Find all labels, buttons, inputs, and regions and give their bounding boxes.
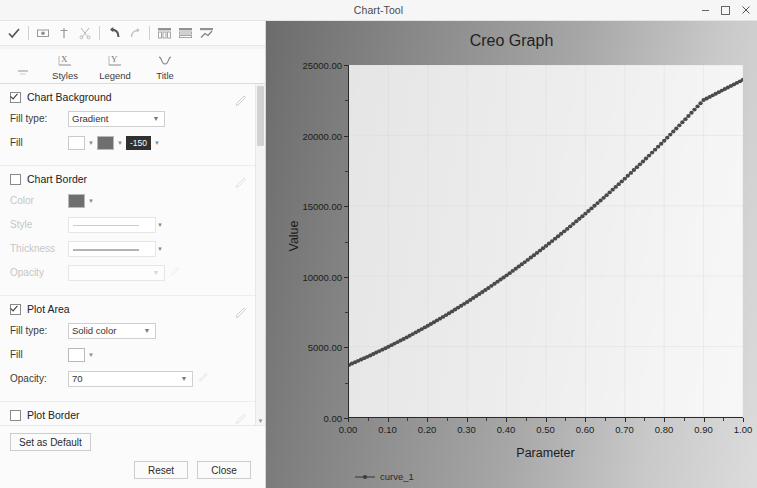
tab-title[interactable]: Title xyxy=(140,49,190,83)
chart-border-color-swatches: ▼ xyxy=(68,194,95,208)
plot-fill-swatches: ▼ xyxy=(68,348,95,362)
chevron-down-icon[interactable]: ▼ xyxy=(87,140,95,146)
chevron-down-icon[interactable]: ▼ xyxy=(87,352,95,358)
y-tick-mark xyxy=(344,136,348,137)
plot-area-checkbox[interactable] xyxy=(10,304,21,315)
chart-border-thickness-row: Thickness ▼ xyxy=(10,239,253,258)
close-button[interactable] xyxy=(740,5,751,16)
chart-tool-window: Chart-Tool xyxy=(0,0,757,488)
chart-preview-pane[interactable]: Creo Graph 0.005000.0010000.0015000.0020… xyxy=(266,21,757,488)
chart-title: Creo Graph xyxy=(266,32,757,50)
undo-icon[interactable] xyxy=(104,23,124,43)
y-tick-minor xyxy=(345,312,348,313)
fill-color-2-swatch[interactable] xyxy=(97,136,114,150)
border-style-select[interactable] xyxy=(68,217,156,233)
color-label: Color xyxy=(10,195,68,206)
pencil-icon[interactable] xyxy=(198,372,209,385)
minimize-button[interactable] xyxy=(700,5,711,16)
chart-legend[interactable]: curve_1 xyxy=(354,471,414,482)
tab-legend[interactable]: Y Legend xyxy=(90,49,140,83)
plot-opacity-input[interactable]: 70 ▼ xyxy=(68,371,193,387)
y-tick-label: 10000.00 xyxy=(302,271,342,282)
fill-color-1-swatch[interactable] xyxy=(68,136,85,150)
chevron-down-icon: ▼ xyxy=(179,375,189,382)
y-tick-label: 25000.00 xyxy=(302,60,342,71)
x-tick-label: 0.10 xyxy=(378,424,397,435)
maximize-button[interactable] xyxy=(720,5,731,16)
section-title: Plot Border xyxy=(27,409,80,421)
apply-check-icon[interactable] xyxy=(4,23,24,43)
y-tick-label: 20000.00 xyxy=(302,130,342,141)
tab-styles[interactable]: X Styles xyxy=(40,49,90,83)
chevron-down-icon[interactable]: ▼ xyxy=(153,140,161,146)
plot-area[interactable] xyxy=(348,65,743,418)
fill-label: Fill xyxy=(10,349,68,360)
chevron-down-icon[interactable]: ▼ xyxy=(87,198,95,204)
chevron-down-icon[interactable]: ▼ xyxy=(156,222,164,228)
chevron-down-icon[interactable]: ▼ xyxy=(156,246,164,252)
x-tick-label: 1.00 xyxy=(734,424,753,435)
scrollbar-thumb[interactable] xyxy=(257,86,264,146)
pencil-icon[interactable] xyxy=(234,176,248,192)
fill-type-select[interactable]: Gradient ▼ xyxy=(68,111,165,127)
section-plot-area: Plot Area Fill type: Solid color ▼ Fill xyxy=(0,296,265,402)
chart-background-checkbox[interactable] xyxy=(10,92,21,103)
opacity-label: Opacity: xyxy=(10,373,68,384)
plot-fill-type-select[interactable]: Solid color ▼ xyxy=(68,323,156,339)
x-tick-mark xyxy=(348,418,349,422)
y-tick-minor xyxy=(345,383,348,384)
show-hide-icon[interactable] xyxy=(33,23,53,43)
scroll-down-icon[interactable]: ▼ xyxy=(256,416,265,425)
grid-columns-icon[interactable] xyxy=(154,23,174,43)
border-thickness-select[interactable] xyxy=(68,241,156,257)
set-as-default-button[interactable]: Set as Default xyxy=(10,433,91,451)
plot-border-checkbox[interactable] xyxy=(10,410,21,421)
x-tick-label: 0.20 xyxy=(418,424,437,435)
x-tick-label: 0.60 xyxy=(576,424,595,435)
pencil-icon[interactable] xyxy=(234,412,248,425)
x-tick-mark xyxy=(625,418,626,422)
add-icon[interactable] xyxy=(54,23,74,43)
x-tick-label: 0.90 xyxy=(694,424,713,435)
legend-label: curve_1 xyxy=(380,471,414,482)
redo-icon[interactable] xyxy=(125,23,145,43)
tab-general[interactable] xyxy=(6,60,40,83)
pencil-icon[interactable] xyxy=(234,306,248,322)
chart-background-header[interactable]: Chart Background xyxy=(10,91,253,103)
toolbar-separator xyxy=(99,26,100,40)
close-button-dialog[interactable]: Close xyxy=(197,461,251,479)
panel-scrollbar[interactable]: ▲ ▼ xyxy=(255,84,265,425)
section-plot-border: Plot Border xyxy=(0,402,265,425)
pencil-icon[interactable] xyxy=(170,266,181,279)
plot-fill-color-swatch[interactable] xyxy=(68,348,85,362)
toolbar-separator xyxy=(28,26,29,40)
fill-type-label: Fill type: xyxy=(10,325,68,336)
fill-type-label: Fill type: xyxy=(10,113,68,124)
x-tick-minor xyxy=(407,418,408,421)
plot-area-header[interactable]: Plot Area xyxy=(10,303,253,315)
x-tick-mark xyxy=(427,418,428,422)
y-tick-mark xyxy=(344,347,348,348)
chart-border-header[interactable]: Chart Border xyxy=(10,173,253,185)
chart-border-checkbox[interactable] xyxy=(10,174,21,185)
border-opacity-input[interactable]: ▼ xyxy=(68,265,165,281)
reset-button[interactable]: Reset xyxy=(134,461,188,479)
x-tick-label: 0.30 xyxy=(457,424,476,435)
border-color-swatch[interactable] xyxy=(68,194,85,208)
chart-border-style-row: Style ▼ xyxy=(10,215,253,234)
chevron-down-icon[interactable]: ▼ xyxy=(116,140,124,146)
grid-rows-icon[interactable] xyxy=(175,23,195,43)
y-tick-label: 15000.00 xyxy=(302,201,342,212)
section-chart-background: Chart Background Fill type: Gradient ▼ F… xyxy=(0,84,265,166)
plot-border-header[interactable]: Plot Border xyxy=(10,409,253,421)
pencil-icon[interactable] xyxy=(234,94,248,110)
properties-scroll-area: Chart Background Fill type: Gradient ▼ F… xyxy=(0,84,265,425)
opacity-label: Opacity xyxy=(10,267,68,278)
section-title: Chart Background xyxy=(27,91,112,103)
cut-icon[interactable] xyxy=(75,23,95,43)
chart-style-icon[interactable] xyxy=(196,23,216,43)
fill-angle-input[interactable]: -150 xyxy=(126,136,151,150)
titlebar: Chart-Tool xyxy=(0,0,757,21)
chevron-down-icon: ▼ xyxy=(151,269,161,276)
y-tick-minor xyxy=(345,242,348,243)
